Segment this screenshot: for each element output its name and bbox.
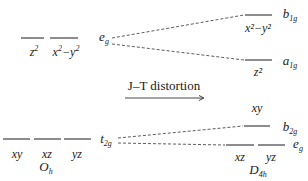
orbital-label-z2: z2 <box>30 45 39 58</box>
eg-set-label: eg <box>99 30 109 46</box>
orbital-label-x2-y2: x2−y2 <box>53 45 80 58</box>
jahn-teller-diagram: z2 x2−y2 eg b1g x²−y² a1g z² J–T distort… <box>0 0 308 181</box>
d4h-eg-orbital-xz: xz <box>235 151 245 163</box>
a1g-label: a1g <box>283 54 298 70</box>
b1g-label: b1g <box>283 7 298 23</box>
right-arrow-icon <box>125 96 204 101</box>
t2g-orbital-yz: yz <box>72 148 82 160</box>
dashed-t2g-to-eg <box>118 143 225 145</box>
d4h-eg-label: eg <box>293 137 303 153</box>
b2g-label: b2g <box>283 120 298 136</box>
d4h-eg-orbital-yz: yz <box>266 151 276 163</box>
b2g-orbital-label: xy <box>252 102 263 114</box>
t2g-orbital-xy: xy <box>12 148 23 160</box>
d4h-symmetry-label: D4h <box>249 163 266 179</box>
jt-distortion-label: J–T distortion <box>128 79 200 92</box>
b1g-orbital-label: x²−y² <box>245 22 271 34</box>
dashed-eg-to-a1g <box>112 44 244 60</box>
dashed-t2g-to-b2g <box>118 126 243 138</box>
dashed-eg-to-b1g <box>112 15 244 38</box>
oh-symmetry-label: Oh <box>39 160 52 176</box>
a1g-orbital-label: z² <box>254 66 262 78</box>
t2g-set-label: t2g <box>100 132 112 148</box>
